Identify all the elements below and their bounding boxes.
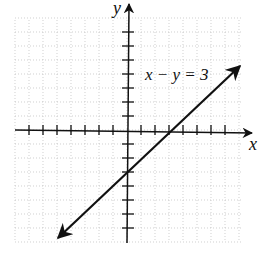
coordinate-plane: y x x − y = 3 [0,0,259,254]
x-axis-label: x [248,134,257,154]
equation-label: x − y = 3 [144,65,209,84]
x-axis [15,130,252,133]
y-axis-label: y [111,0,121,18]
y-axis [127,4,129,243]
